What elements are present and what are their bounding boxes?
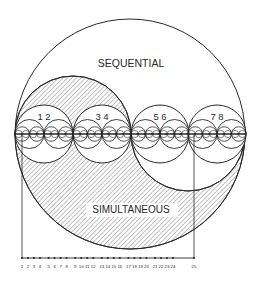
ruler-dot <box>113 257 115 259</box>
ruler-dot <box>74 257 76 259</box>
ruler-tick-label: 14 <box>105 264 110 269</box>
ruler-tick-label: 10 <box>79 264 84 269</box>
ruler-tick-label: 17 <box>126 264 131 269</box>
ruler-dot <box>107 257 109 259</box>
ruler-dot <box>80 257 82 259</box>
ruler-dot <box>33 257 35 259</box>
ruler-dot <box>154 257 156 259</box>
pair-label-5-6: 5 6 <box>153 111 166 122</box>
sequential-label: SEQUENTIAL <box>98 57 165 69</box>
pair-label-1-2: 1 2 <box>37 111 50 122</box>
ruler-tick-label: 12 <box>91 264 96 269</box>
ruler-tick-label: 18 <box>132 264 137 269</box>
ruler-dot <box>39 257 41 259</box>
ruler-dot <box>27 257 29 259</box>
ruler-dot <box>160 257 162 259</box>
ruler-ticks: 1234567891011121314151617181920212223242… <box>21 257 197 269</box>
ruler-dot <box>127 257 129 259</box>
ruler-tick-label: 21 <box>153 264 158 269</box>
ruler-tick-label: 24 <box>171 264 176 269</box>
sequential-simultaneous-diagram: 1234567891011121314151617181920212223242… <box>0 0 260 283</box>
pair-label-7-8: 7 8 <box>210 111 223 122</box>
ruler-tick-label: 6 <box>53 264 56 269</box>
simultaneous-label: SIMULTANEOUS <box>92 204 170 215</box>
ruler-tick-label: 22 <box>159 264 164 269</box>
ruler-dot <box>145 257 147 259</box>
ruler-tick-label: 8 <box>65 264 68 269</box>
ruler-tick-label: 5 <box>47 264 50 269</box>
pair-label-3-4: 3 4 <box>95 111 108 122</box>
ruler-dot <box>60 257 62 259</box>
ruler-tick-label: 19 <box>138 264 143 269</box>
ruler-tick-label: 25 <box>192 264 197 269</box>
ruler-tick-label: 15 <box>111 264 116 269</box>
ruler-tick-label: 4 <box>39 264 42 269</box>
ruler-tick-label: 1 <box>21 264 24 269</box>
ruler-dot <box>21 257 23 259</box>
ruler-dot <box>193 257 195 259</box>
ruler-dot <box>166 257 168 259</box>
ruler-dot <box>119 257 121 259</box>
ruler-dot <box>92 257 94 259</box>
ruler-tick-label: 13 <box>99 264 104 269</box>
ruler-tick-label: 2 <box>27 264 30 269</box>
ruler-dot <box>66 257 68 259</box>
ruler-dot <box>101 257 103 259</box>
ruler-dot <box>86 257 88 259</box>
ruler-dot <box>54 257 56 259</box>
ruler-tick-label: 16 <box>117 264 122 269</box>
ruler-tick-label: 3 <box>33 264 36 269</box>
ruler-dot <box>133 257 135 259</box>
ruler-tick-label: 9 <box>74 264 77 269</box>
ruler-dot <box>48 257 50 259</box>
ruler-dot <box>139 257 141 259</box>
ruler-dot <box>172 257 174 259</box>
ruler-tick-label: 20 <box>144 264 149 269</box>
ruler-tick-label: 23 <box>165 264 170 269</box>
ruler-tick-label: 7 <box>59 264 62 269</box>
ruler-tick-label: 11 <box>85 264 90 269</box>
